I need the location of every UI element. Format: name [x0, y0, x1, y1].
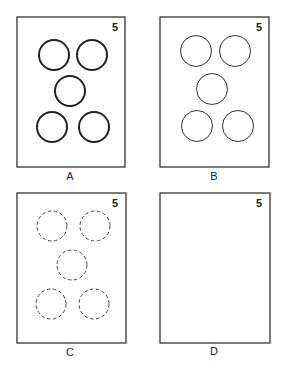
panel-d-label: D — [204, 345, 224, 357]
circle — [182, 111, 213, 142]
circle — [77, 40, 107, 70]
panel-d — [160, 193, 270, 343]
circle — [37, 112, 67, 142]
card-border — [17, 17, 125, 167]
dashed-circle — [80, 211, 110, 241]
circle — [79, 112, 109, 142]
dashed-circle — [36, 289, 66, 319]
panel-a-label: A — [60, 170, 80, 182]
panel-a — [17, 17, 125, 167]
circle — [55, 76, 85, 106]
card-border — [17, 193, 126, 343]
panel-b — [160, 17, 269, 167]
panel-c-label: C — [60, 346, 80, 358]
diagram-canvas — [0, 0, 283, 366]
panel-a-number: 5 — [112, 21, 118, 33]
panel-c — [17, 193, 126, 343]
circle — [39, 40, 69, 70]
panel-d-number: 5 — [256, 197, 262, 209]
card-border — [160, 17, 269, 167]
circle — [181, 36, 212, 67]
dashed-circle — [79, 289, 109, 319]
dashed-circle — [57, 250, 87, 280]
card-border — [160, 193, 270, 343]
circle — [197, 74, 228, 105]
dashed-circle — [37, 211, 67, 241]
panel-b-number: 5 — [256, 21, 262, 33]
panel-b-label: B — [204, 170, 224, 182]
circle — [220, 36, 251, 67]
panel-c-number: 5 — [112, 197, 118, 209]
circle — [223, 111, 254, 142]
